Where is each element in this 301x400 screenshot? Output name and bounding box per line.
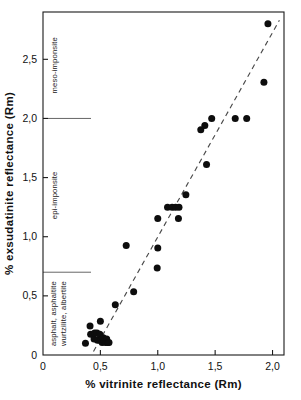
- chart-background: [0, 0, 301, 400]
- data-point: [182, 191, 189, 198]
- data-point: [260, 79, 267, 86]
- data-point: [208, 115, 215, 122]
- data-point: [130, 288, 137, 295]
- x-axis-title: % vitrinite reflectance (Rm): [85, 378, 242, 390]
- data-point: [175, 204, 182, 211]
- x-tick-label: 0,5: [93, 360, 108, 372]
- y-tick-label: 2,5: [22, 53, 37, 65]
- y-axis-title: % exsudatinite reflectance (Rm): [3, 92, 15, 275]
- zone-label: asphalt, asphaltite: [49, 281, 58, 346]
- data-point: [105, 339, 112, 346]
- y-tick-label: 0,5: [22, 289, 37, 301]
- data-point: [154, 215, 161, 222]
- data-point: [112, 301, 119, 308]
- plot-svg: 00,51,01,52,0 0,51,01,52,02,50 meso-impo…: [0, 0, 301, 400]
- data-point: [154, 265, 161, 272]
- zone-label: epi-imponsite: [50, 171, 59, 219]
- zone-label-secondary: wurtzilite, albertite: [59, 281, 68, 347]
- x-tick-label: 2,0: [265, 360, 280, 372]
- data-point: [232, 115, 239, 122]
- data-point: [175, 215, 182, 222]
- data-point: [243, 115, 250, 122]
- data-point: [154, 244, 161, 251]
- y-tick-label: 1,5: [22, 171, 37, 183]
- scatter-chart: 00,51,01,52,0 0,51,01,52,02,50 meso-impo…: [0, 0, 301, 400]
- data-point: [201, 122, 208, 129]
- y-origin-label: 0: [31, 349, 37, 361]
- zone-label: meso-imponsite: [50, 37, 59, 93]
- y-tick-label: 2,0: [22, 112, 37, 124]
- data-point: [203, 161, 210, 168]
- data-point: [264, 20, 271, 27]
- x-tick-label: 1,0: [150, 360, 165, 372]
- data-point: [82, 340, 89, 347]
- data-point: [87, 323, 94, 330]
- x-tick-label: 1,5: [208, 360, 223, 372]
- data-point: [123, 242, 130, 249]
- data-point: [97, 318, 104, 325]
- y-tick-label: 1,0: [22, 230, 37, 242]
- x-tick-label: 0: [40, 360, 46, 372]
